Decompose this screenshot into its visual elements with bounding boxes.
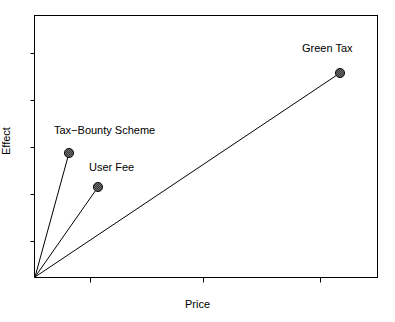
x-axis-ticks	[91, 278, 321, 283]
x-axis-title: Price	[0, 298, 395, 310]
data-point-green-tax[interactable]	[335, 68, 344, 77]
y-axis-ticks	[31, 54, 35, 242]
data-label-user-fee: User Fee	[89, 161, 134, 173]
chart-figure: Effect Price Tax−Bounty Scheme User Fee …	[0, 0, 395, 322]
data-label-tax-bounty: Tax−Bounty Scheme	[54, 124, 155, 136]
plot-frame	[35, 16, 378, 278]
data-point-tax-bounty[interactable]	[64, 148, 73, 157]
data-point-user-fee[interactable]	[93, 182, 102, 191]
data-label-green-tax: Green Tax	[302, 42, 353, 54]
y-axis-title: Effect	[0, 131, 12, 155]
